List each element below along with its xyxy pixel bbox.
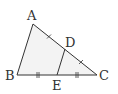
label-c: C: [99, 68, 109, 83]
triangle-abc-fill: [17, 24, 97, 75]
label-a: A: [26, 8, 37, 23]
label-d: D: [65, 35, 75, 50]
label-e: E: [52, 78, 62, 93]
label-b: B: [5, 68, 15, 83]
triangle-diagram: A B C D E: [0, 0, 118, 94]
